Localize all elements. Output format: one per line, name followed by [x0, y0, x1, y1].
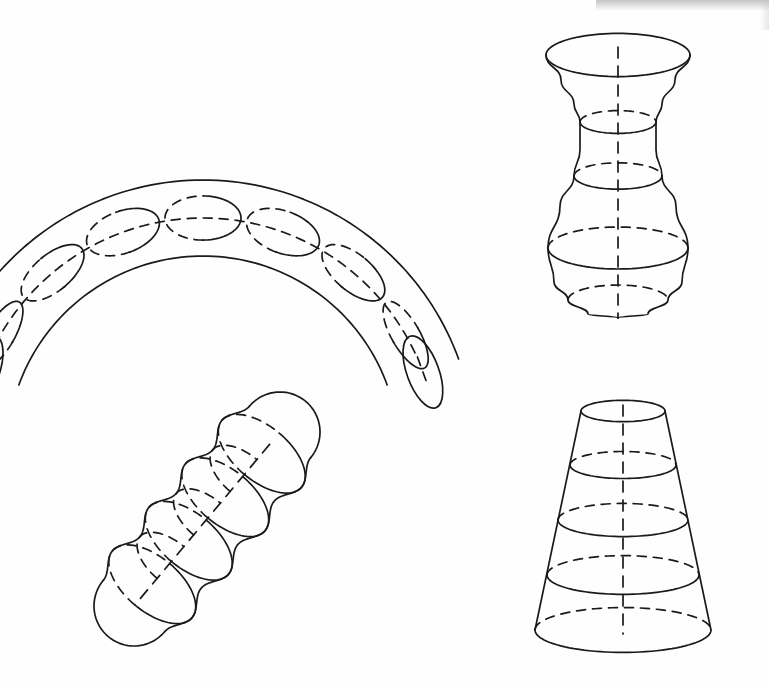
wavy-silhouette-side-a [165, 458, 311, 632]
elbow-cross-section-5-back-dashed [247, 208, 291, 252]
wavy-waist-seam-2-dashed [174, 489, 221, 535]
geometry-figures-canvas [0, 0, 769, 683]
elbow-cross-section-1-front [0, 301, 23, 342]
figure-curved-elbow-tube [0, 180, 459, 413]
elbow-end-cap-right-axis-tick [417, 357, 428, 387]
figure-truncated-cone-frustum [535, 400, 711, 652]
vase-silhouette-right [618, 55, 690, 318]
wavy-waist-seam-3-dashed [210, 445, 257, 491]
figure-vase-solid-of-revolution [546, 33, 690, 318]
elbow-cross-section-3-back-dashed [87, 212, 131, 255]
figure-wavy-beaded-cylinder [94, 392, 320, 646]
elbow-end-cap-left [0, 331, 11, 413]
elbow-cross-section-7-front [393, 328, 428, 369]
elbow-cross-section-4-back-dashed [165, 196, 203, 240]
wavy-central-axis-dashed [140, 440, 273, 599]
elbow-cross-section-6-front [342, 259, 385, 301]
elbow-outer-silhouette [0, 180, 459, 359]
elbow-cross-section-5-front [276, 212, 320, 255]
wavy-cross-section-1-back-dashed [109, 545, 170, 605]
elbow-cross-section-2-back-dashed [21, 259, 64, 301]
figure-page [0, 0, 769, 683]
elbow-cross-section-3-front [116, 208, 160, 252]
vase-silhouette-left [546, 55, 618, 318]
wavy-end-cap-near [94, 580, 165, 646]
elbow-inner-silhouette [19, 256, 387, 385]
wavy-end-cap-far [249, 392, 320, 458]
